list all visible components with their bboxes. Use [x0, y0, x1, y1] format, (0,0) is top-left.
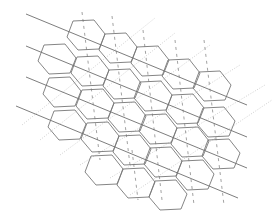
- dashed-line: [204, 40, 224, 205]
- solid-row-lines: [16, 14, 247, 198]
- dashed-line: [112, 16, 130, 165]
- hexagon-cell: [71, 56, 109, 86]
- hexagon-cells: [38, 20, 240, 210]
- hexagon-cell: [67, 20, 105, 50]
- hexagon-cell: [81, 122, 119, 152]
- hexagon-cell: [117, 168, 155, 198]
- hexagon-cell: [85, 155, 123, 185]
- hex-lattice-diagram: [0, 0, 280, 217]
- dashed-line: [132, 150, 138, 200]
- dashed-line: [175, 40, 194, 205]
- dotted-line: [80, 65, 240, 165]
- hexagon-cell: [76, 89, 114, 119]
- hexagon-cell: [149, 180, 187, 210]
- hexagon-cell: [48, 110, 86, 140]
